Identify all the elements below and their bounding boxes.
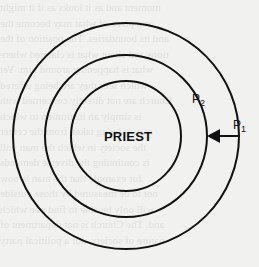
p1-label: P1 [233, 118, 246, 134]
p1-subscript: 1 [241, 124, 246, 134]
p1-letter: P [233, 118, 241, 132]
center-label: PRIEST [104, 129, 152, 144]
p2-subscript: 2 [200, 98, 205, 108]
p2-letter: P [192, 92, 200, 106]
arrow-head-icon [207, 129, 220, 143]
p2-label: P2 [192, 92, 205, 108]
